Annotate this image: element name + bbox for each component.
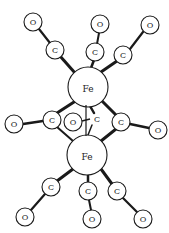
bond-c2-o2 [97,33,99,44]
atom-o8: O [83,210,101,228]
bond-fe2-c6 [101,129,116,141]
bond-c4-o4 [23,121,43,124]
atom-c7: C [42,178,60,196]
bond-fe1-c1 [60,56,75,73]
atom-c2: C [86,43,104,61]
bond-fe2-c7 [57,169,73,181]
svg-text:C: C [92,48,98,57]
svg-text:C: C [118,118,124,127]
svg-text:O: O [11,120,18,129]
svg-text:O: O [155,126,162,135]
atom-c9: C [108,182,126,200]
svg-text:C: C [120,51,126,60]
svg-text:C: C [52,46,58,55]
svg-text:C: C [94,115,100,124]
svg-text:O: O [97,20,104,29]
atom-o6: O [149,121,167,139]
bond-c7-o7 [31,194,45,210]
atom-c4: C [43,111,61,129]
atom-c5: C [94,115,100,124]
svg-text:C: C [85,187,91,196]
atom-o7: O [16,208,34,226]
bond-fe1-c6 [102,101,116,115]
svg-text:O: O [70,118,77,127]
atom-o4: O [5,115,23,133]
atom-o9: O [134,210,152,228]
atom-fe-upper: Fe [68,67,108,107]
svg-text:Fe: Fe [81,152,92,162]
bond-fe1-c4 [57,102,74,113]
atom-o5: O [64,113,82,131]
bond-fe2-c5 [88,125,92,135]
atom-c8: C [79,182,97,200]
atom-fe-lower: Fe [67,135,107,175]
atom-c6: C [112,113,130,131]
atom-c1: C [46,41,64,59]
bond-fe1-c3 [101,61,117,72]
svg-text:O: O [140,215,147,224]
fe2co9-structure-diagram: Fe Fe O C O C O C O C C O C O C O C O C … [0,0,169,233]
bond-c8-o8 [89,200,91,210]
svg-text:C: C [49,116,55,125]
bond-fe2-c9 [101,169,112,184]
bond-c9-o9 [123,198,137,212]
svg-text:O: O [147,21,154,30]
svg-text:Fe: Fe [82,84,93,94]
atom-o2: O [91,15,109,33]
svg-text:O: O [89,215,96,224]
atom-o1: O [24,13,42,31]
svg-text:O: O [22,213,29,222]
svg-text:C: C [114,187,120,196]
svg-text:O: O [30,18,37,27]
bond-c3-o3 [130,32,143,49]
atom-c3: C [114,46,132,64]
atom-o3: O [141,16,159,34]
bond-c1-o1 [39,29,50,43]
svg-text:C: C [48,183,54,192]
bond-c6-o6 [130,124,149,128]
